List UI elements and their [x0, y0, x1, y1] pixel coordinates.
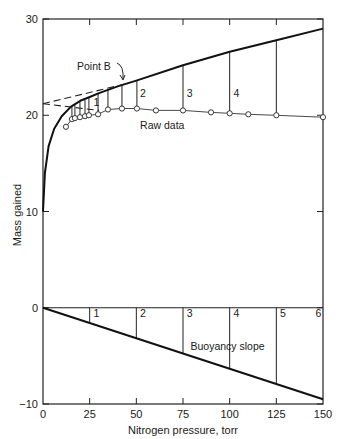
x-tick-label: 0 — [40, 408, 46, 420]
raw-data-point — [274, 113, 279, 118]
y-axis-label: Mass gained — [11, 184, 23, 246]
y-tick-label: 10 — [26, 206, 38, 218]
x-axis-label: Nitrogen pressure, torr — [128, 424, 238, 436]
raw-data-label: Raw data — [140, 119, 185, 131]
raw-data-point — [208, 110, 213, 115]
y-tick-label: 20 — [26, 109, 38, 121]
y-tick-label: 30 — [26, 13, 38, 25]
segment-number-label: 6 — [316, 307, 322, 319]
segment-number-label: 2 — [140, 307, 146, 319]
raw-data-point — [105, 107, 110, 112]
raw-data-point — [180, 108, 185, 113]
segment-number-label: 1 — [93, 96, 99, 108]
raw-data-point — [119, 106, 124, 111]
lower-extrapolation-dashed-line — [43, 104, 99, 111]
raw-data-point — [72, 116, 77, 121]
raw-data-point — [95, 112, 100, 117]
point-b-arrow — [117, 63, 123, 79]
raw-data-point — [77, 115, 82, 120]
segment-number-label: 4 — [233, 87, 239, 99]
x-tick-label: 150 — [314, 408, 332, 420]
y-tick-label: 0 — [32, 302, 38, 314]
raw-data-point — [153, 108, 158, 113]
point-b-label: Point B — [77, 60, 111, 72]
segment-number-label: 4 — [233, 307, 239, 319]
axis-ticks: 0255075100125150−100102030 — [19, 13, 332, 420]
arrowhead-icon — [120, 75, 125, 80]
buoyancy-slope-label: Buoyancy slope — [190, 340, 264, 352]
segment-number-label: 5 — [280, 307, 286, 319]
raw-data-point — [63, 124, 68, 129]
raw-data-markers — [63, 106, 325, 129]
x-tick-label: 75 — [177, 408, 189, 420]
segment-number-label: 2 — [140, 87, 146, 99]
x-tick-label: 100 — [220, 408, 238, 420]
segment-number-label: 3 — [187, 307, 193, 319]
y-tick-label: −10 — [19, 398, 38, 410]
x-tick-label: 25 — [84, 408, 96, 420]
segment-number-label: 3 — [187, 87, 193, 99]
raw-data-point — [320, 115, 325, 120]
raw-data-point — [227, 111, 232, 116]
raw-data-point — [246, 112, 251, 117]
raw-data-line — [66, 109, 323, 127]
chart-svg: 0255075100125150−100102030 Point BRaw da… — [0, 0, 344, 439]
x-tick-label: 50 — [130, 408, 142, 420]
x-tick-label: 125 — [267, 408, 285, 420]
chart-container: 0255075100125150−100102030 Point BRaw da… — [0, 0, 344, 439]
raw-data-point — [86, 113, 91, 118]
segment-number-label: 1 — [93, 307, 99, 319]
raw-data-point — [134, 106, 139, 111]
